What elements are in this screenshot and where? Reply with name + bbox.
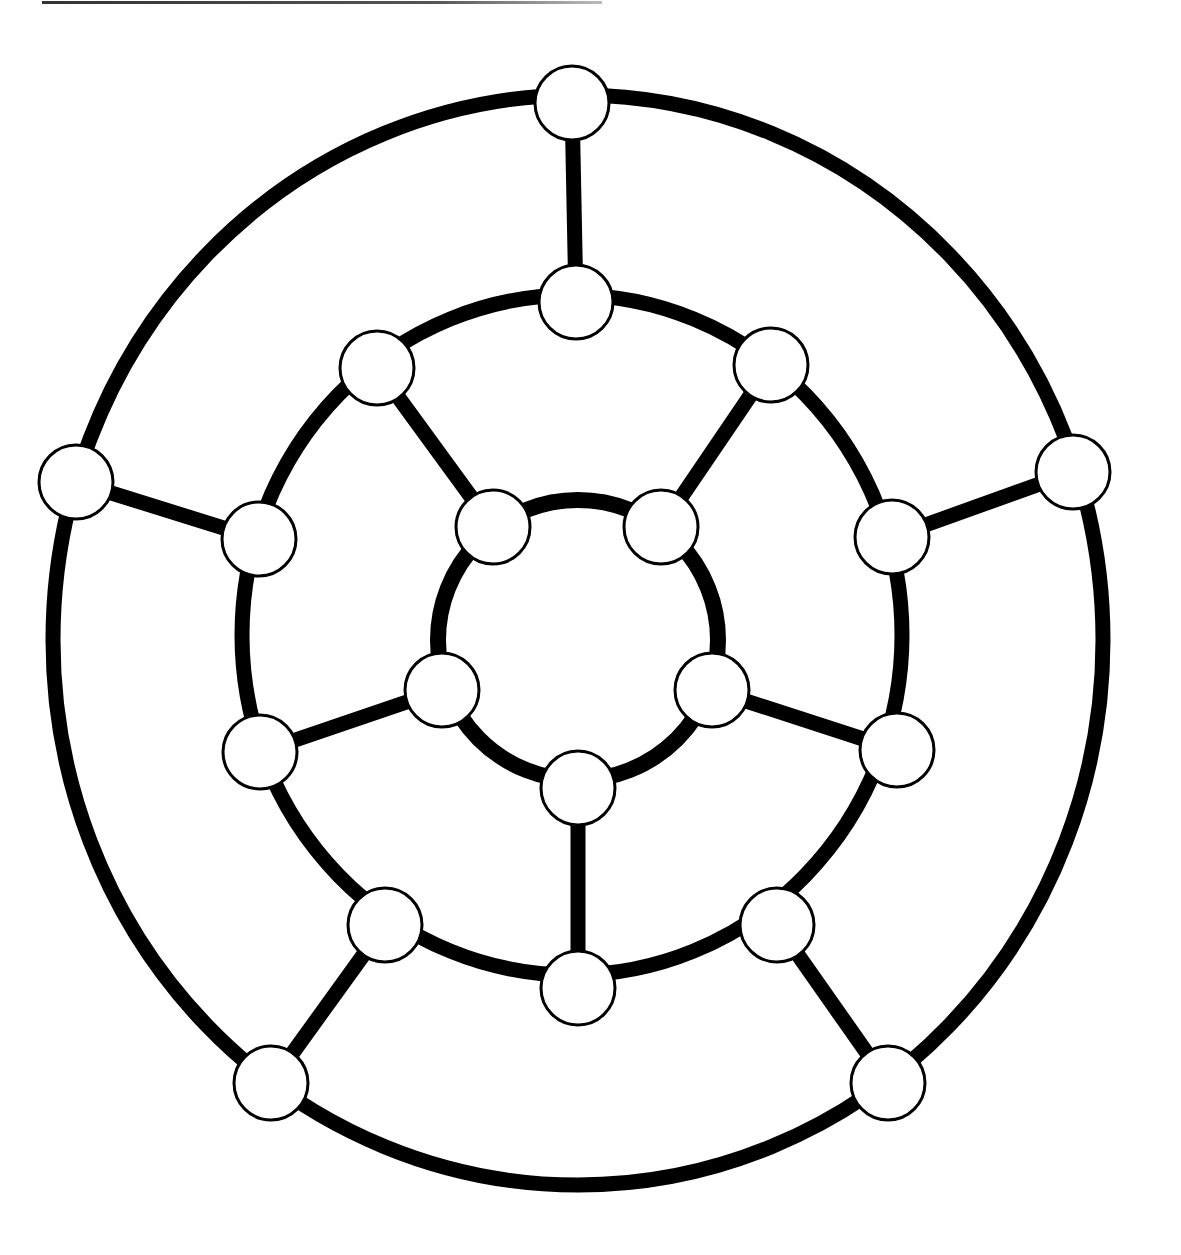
graph-node-i3[interactable]	[675, 653, 749, 727]
graph-node-o5[interactable]	[39, 445, 113, 519]
spokes-layer	[76, 103, 1073, 1083]
graph-node-m3[interactable]	[855, 500, 929, 574]
graph-node-m8[interactable]	[223, 715, 297, 789]
ring-graph-diagram	[0, 0, 1181, 1255]
graph-node-m2[interactable]	[734, 328, 808, 402]
graph-node-o1[interactable]	[535, 66, 609, 140]
graph-node-o3[interactable]	[851, 1046, 925, 1120]
graph-node-i1[interactable]	[456, 490, 530, 564]
graph-node-m5[interactable]	[740, 888, 814, 962]
graph-node-i2[interactable]	[624, 490, 698, 564]
graph-node-i5[interactable]	[405, 653, 479, 727]
graph-node-i4[interactable]	[541, 751, 615, 825]
graph-node-o4[interactable]	[234, 1046, 308, 1120]
graph-node-o2[interactable]	[1036, 435, 1110, 509]
graph-node-m9[interactable]	[222, 502, 296, 576]
graph-node-m7[interactable]	[348, 888, 422, 962]
graph-node-m1[interactable]	[539, 265, 613, 339]
graph-node-m10[interactable]	[340, 331, 414, 405]
graph-node-m6[interactable]	[541, 951, 615, 1025]
graph-node-m4[interactable]	[860, 713, 934, 787]
